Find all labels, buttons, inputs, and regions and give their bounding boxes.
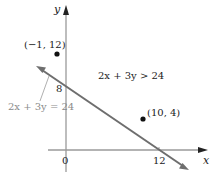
- x-tick-label-12: 12: [153, 155, 166, 166]
- graph-canvas: y x 0 12 8 2x + 3y > 24 2x + 3y = 24 (−1…: [0, 0, 216, 187]
- y-axis-label: y: [53, 3, 61, 16]
- y-tick-label-8: 8: [56, 83, 62, 94]
- point-10-4: [140, 116, 145, 121]
- point-neg1-12: [54, 51, 59, 56]
- x-axis-arrow-icon: [198, 147, 208, 153]
- inequality-label: 2x + 3y > 24: [98, 70, 164, 81]
- inequality-graph: y x 0 12 8 2x + 3y > 24 2x + 3y = 24 (−1…: [0, 0, 216, 187]
- x-axis-label: x: [203, 154, 210, 167]
- y-axis-arrow-icon: [63, 5, 69, 15]
- equation-leader-line: [40, 76, 49, 101]
- origin-label: 0: [62, 155, 68, 166]
- line-equation-label: 2x + 3y = 24: [8, 101, 74, 112]
- point-label-neg1-12: (−1, 12): [24, 39, 66, 50]
- boundary-line: [42, 70, 183, 166]
- point-label-10-4: (10, 4): [147, 107, 180, 118]
